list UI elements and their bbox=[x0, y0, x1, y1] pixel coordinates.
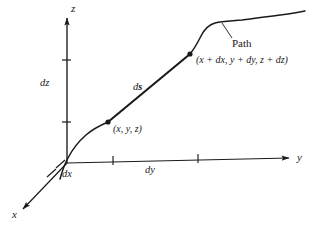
ds-symbol: s bbox=[138, 81, 142, 92]
y-axis-line bbox=[67, 158, 289, 163]
path-leader-line bbox=[222, 23, 232, 38]
path-curve-group bbox=[60, 11, 305, 179]
point-marker-end bbox=[187, 51, 192, 56]
point-label-start: (x, y, z) bbox=[113, 124, 142, 134]
ds-segment bbox=[108, 54, 190, 122]
path-annotation-label: Path bbox=[232, 38, 252, 49]
point-label-end: (x + dx, y + dy, z + dz) bbox=[196, 55, 288, 65]
differential-label-dx: dx bbox=[62, 169, 72, 180]
vector-label-ds: ds bbox=[133, 82, 142, 93]
axis-label-z: z bbox=[71, 3, 75, 14]
point-marker-start bbox=[105, 119, 110, 124]
axis-label-x: x bbox=[12, 209, 17, 220]
axis-label-y: y bbox=[297, 152, 302, 163]
differential-label-dz: dz bbox=[40, 78, 49, 89]
x-axis-line bbox=[23, 163, 67, 209]
differential-label-dy: dy bbox=[145, 165, 155, 176]
figure-canvas bbox=[0, 0, 313, 234]
differential-displacement-figure: z y x dz dy dx ds (x, y, z) (x + dx, y +… bbox=[0, 0, 313, 234]
